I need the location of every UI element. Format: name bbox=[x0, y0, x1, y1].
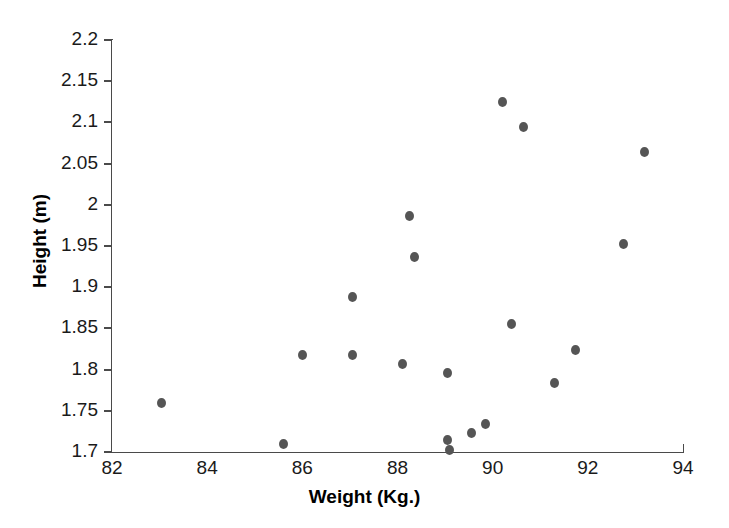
scatter-point bbox=[443, 368, 452, 378]
x-axis-tick-label-text: 90 bbox=[463, 457, 523, 479]
x-axis-tick-label: 86 bbox=[272, 457, 332, 481]
scatter-plot-figure: 1.71.751.81.851.91.9522.052.12.152.2 828… bbox=[0, 0, 729, 528]
y-axis-tick bbox=[104, 39, 112, 41]
y-axis-tick-label-text: 1.85 bbox=[28, 316, 98, 338]
scatter-point bbox=[157, 398, 166, 408]
x-axis-tick-label: 82 bbox=[82, 457, 142, 481]
y-axis-tick bbox=[104, 245, 112, 247]
scatter-point bbox=[445, 445, 454, 455]
y-axis-tick-label: 2.2 bbox=[18, 28, 98, 50]
y-axis-tick-label: 2.1 bbox=[18, 110, 98, 132]
x-axis-tick-label-text: 84 bbox=[177, 457, 237, 479]
scatter-point bbox=[279, 439, 288, 449]
y-axis-tick-label-text: 2.2 bbox=[28, 28, 98, 50]
scatter-point bbox=[519, 122, 528, 132]
scatter-point bbox=[410, 252, 419, 262]
scatter-point bbox=[398, 359, 407, 369]
x-axis-tick-label-text: 94 bbox=[653, 457, 713, 479]
scatter-point bbox=[443, 435, 452, 445]
scatter-point bbox=[348, 350, 357, 360]
x-axis-title: Weight (Kg.) bbox=[0, 486, 729, 508]
y-axis-tick bbox=[104, 163, 112, 165]
y-axis-tick bbox=[104, 80, 112, 82]
x-axis-tick-label: 92 bbox=[558, 457, 618, 481]
x-axis-tick-label-text: 88 bbox=[368, 457, 428, 479]
x-axis-tick-label-text: 82 bbox=[82, 457, 142, 479]
x-axis-tick-label: 90 bbox=[463, 457, 523, 481]
y-axis-tick-label: 1.75 bbox=[18, 399, 98, 421]
plot-data-area bbox=[112, 40, 683, 452]
y-axis-tick bbox=[104, 286, 112, 288]
scatter-point bbox=[498, 97, 507, 107]
x-axis-tick-label: 88 bbox=[368, 457, 428, 481]
y-axis-tick-label: 1.8 bbox=[18, 358, 98, 380]
y-axis-tick-label: 2.15 bbox=[18, 69, 98, 91]
y-axis-title: Height (m) bbox=[29, 171, 51, 311]
x-axis-tick-label: 94 bbox=[653, 457, 713, 481]
y-axis-tick bbox=[104, 369, 112, 371]
y-axis-tick bbox=[104, 327, 112, 329]
scatter-point bbox=[467, 428, 476, 438]
y-axis-tick bbox=[104, 204, 112, 206]
y-axis-tick-label-text: 2.1 bbox=[28, 110, 98, 132]
scatter-point bbox=[619, 239, 628, 249]
x-axis-tick-label-text: 92 bbox=[558, 457, 618, 479]
scatter-point bbox=[298, 350, 307, 360]
y-axis-tick-label-text: 2.15 bbox=[28, 69, 98, 91]
y-axis-tick-label-text: 1.8 bbox=[28, 358, 98, 380]
scatter-point bbox=[481, 419, 490, 429]
scatter-point bbox=[405, 211, 414, 221]
x-axis-tick-label-text: 86 bbox=[272, 457, 332, 479]
y-axis-tick-label: 1.85 bbox=[18, 316, 98, 338]
x-axis-tick-label: 84 bbox=[177, 457, 237, 481]
scatter-point bbox=[507, 319, 516, 329]
scatter-point bbox=[550, 378, 559, 388]
scatter-point bbox=[640, 147, 649, 157]
y-axis-tick-label-text: 1.75 bbox=[28, 399, 98, 421]
scatter-point bbox=[571, 345, 580, 355]
y-axis-tick bbox=[104, 121, 112, 123]
y-axis-tick bbox=[104, 410, 112, 412]
scatter-point bbox=[348, 292, 357, 302]
